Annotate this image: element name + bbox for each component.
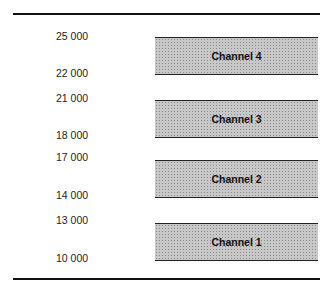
channel-3-label: Channel 3: [211, 113, 261, 125]
channel-4-label: Channel 4: [211, 50, 261, 62]
channel-2-label: Channel 2: [211, 173, 261, 185]
tick-ch1-upper: 13 000: [56, 214, 88, 226]
bottom-rule: [13, 278, 320, 280]
tick-ch3-upper: 21 000: [56, 92, 88, 104]
tick-ch2-upper: 17 000: [56, 151, 88, 163]
tick-ch2-lower: 14 000: [56, 189, 88, 201]
channel-1-band: Channel 1: [155, 223, 318, 261]
channel-2-band: Channel 2: [155, 160, 318, 198]
tick-ch3-lower: 18 000: [56, 129, 88, 141]
channel-3-band: Channel 3: [155, 100, 318, 138]
top-rule: [13, 13, 320, 15]
channel-1-label: Channel 1: [211, 236, 261, 248]
tick-ch1-lower: 10 000: [56, 252, 88, 264]
tick-ch4-lower: 22 000: [56, 67, 88, 79]
channel-4-band: Channel 4: [155, 37, 318, 75]
tick-ch4-upper: 25 000: [56, 30, 88, 42]
